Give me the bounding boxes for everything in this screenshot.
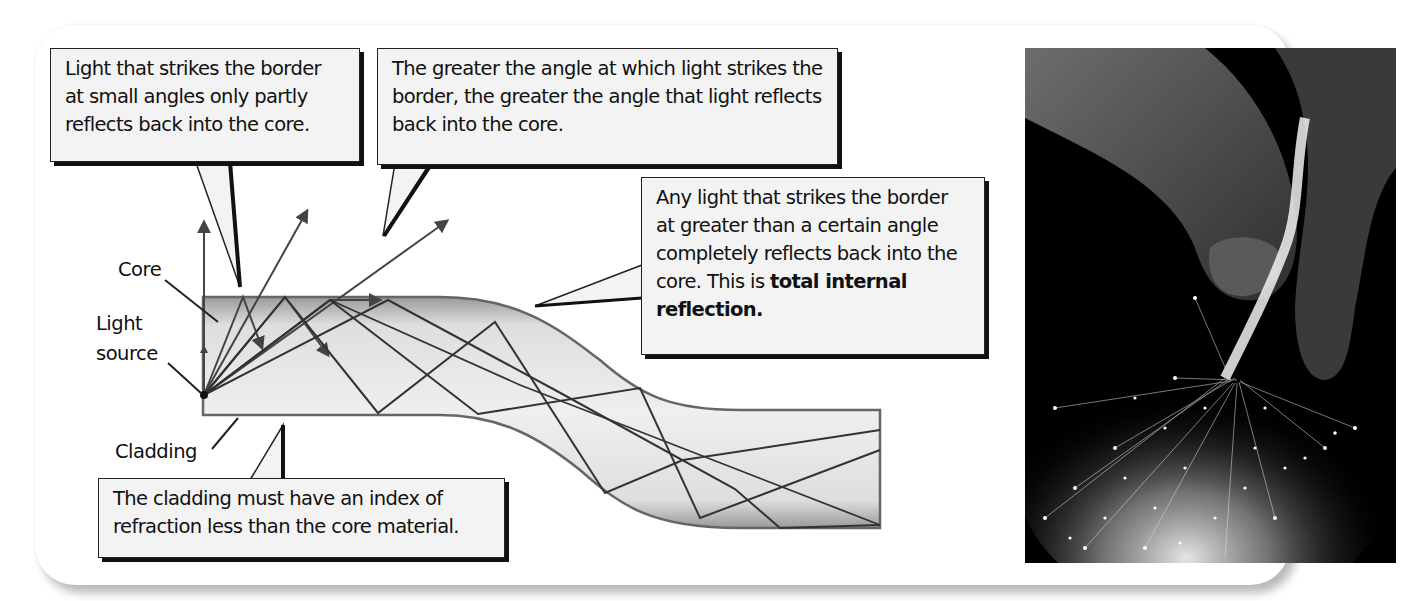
callout-text: The cladding must have an index of refra…: [113, 485, 490, 541]
callout-text: The greater the angle at which light str…: [392, 55, 823, 139]
callout-text: Any light that strikes the border at gre…: [656, 184, 970, 324]
callout-greater-angle: The greater the angle at which light str…: [377, 48, 838, 165]
label-light-source-line2: source: [96, 340, 158, 367]
callout-cladding-index: The cladding must have an index of refra…: [98, 478, 505, 558]
callout-total-internal-reflection: Any light that strikes the border at gre…: [641, 177, 985, 355]
callout-small-angles: Light that strikes the border at small a…: [50, 48, 360, 162]
callout-text: Light that strikes the border at small a…: [65, 55, 345, 139]
fiber-bundle-image: [1025, 48, 1396, 563]
label-core: Core: [118, 256, 161, 283]
fiber-optic-photo: [1025, 48, 1396, 563]
label-cladding: Cladding: [115, 438, 197, 465]
label-light-source-line1: Light: [96, 310, 142, 337]
